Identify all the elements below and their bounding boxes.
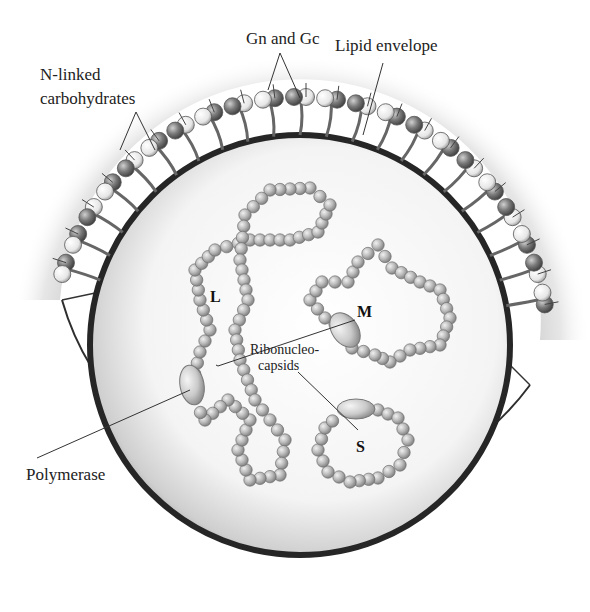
label-segment-l: L bbox=[210, 288, 221, 305]
label-n-linked-line1: N-linked bbox=[40, 65, 101, 84]
label-ribonucleocapsids-line2: capsids bbox=[258, 358, 299, 373]
label-polymerase: Polymerase bbox=[26, 465, 105, 484]
label-n-linked-line2: carbohydrates bbox=[40, 89, 135, 108]
label-ribonucleocapsids-line1: Ribonucleo- bbox=[250, 342, 320, 357]
polymerase-s bbox=[337, 399, 375, 419]
outer-cut-right bbox=[510, 365, 530, 385]
label-segment-m: M bbox=[357, 303, 372, 320]
virion-diagram: Gn and Gc Lipid envelope N-linked carboh… bbox=[0, 0, 590, 612]
label-segment-s: S bbox=[356, 438, 365, 455]
label-gn-gc: Gn and Gc bbox=[246, 29, 320, 48]
label-lipid-envelope: Lipid envelope bbox=[335, 36, 437, 55]
